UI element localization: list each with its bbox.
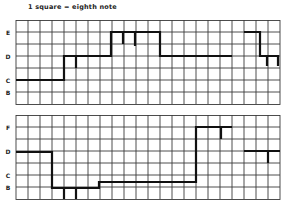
pitch-label: F [3,124,13,131]
grid-top [0,20,290,108]
pitch-label: B [3,184,13,191]
pitch-label: C [3,77,13,84]
pitch-label: B [3,89,13,96]
pitch-label: E [3,29,13,36]
pitch-label: D [3,53,13,60]
grid-bottom [0,115,290,203]
pitch-label: C [3,172,13,179]
melody-graph-bottom: F D C B [0,115,290,203]
caption: 1 square = eighth note [28,3,117,11]
melody-graph-top: E D C B [0,20,290,108]
pitch-label: D [3,148,13,155]
